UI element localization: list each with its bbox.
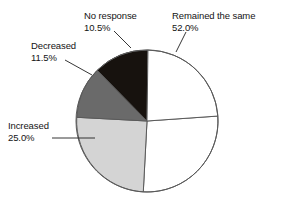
pie-label-increased-name: Increased [8,120,49,132]
pie-label-decreased-name: Decreased [31,40,76,52]
pie-label-decreased-value: 11.5% [31,52,76,64]
pie-slice-residual [147,50,218,121]
pie-label-remained-the-same-name: Remained the same [172,10,255,22]
pie-chart-figure: No response 10.5% Remained the same 52.0… [0,0,285,213]
pie-label-remained-the-same-value: 52.0% [172,22,255,34]
pie-label-no-response-name: No response [84,10,137,22]
pie-label-increased: Increased 25.0% [8,120,49,143]
pie-slices [76,50,218,192]
pie-slice-remained-the-same[interactable] [143,116,218,192]
pie-label-remained-the-same: Remained the same 52.0% [172,10,255,33]
leader-line-no-response [114,31,131,48]
pie-slice-increased[interactable] [77,117,147,192]
pie-label-no-response-value: 10.5% [84,22,137,34]
pie-label-no-response: No response 10.5% [84,10,137,33]
pie-label-decreased: Decreased 11.5% [31,40,76,63]
pie-label-increased-value: 25.0% [8,132,49,144]
leader-line-remained-the-same [176,32,186,52]
